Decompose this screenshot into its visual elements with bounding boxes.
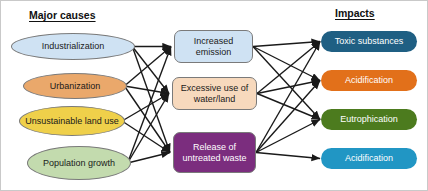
node-label: Unsustainable land use [22,116,122,126]
edge-increased-emission-to-toxic-substances [253,42,320,47]
node-label: Population growth [40,158,118,168]
edge-urbanization-to-release-untreated-waste [124,86,170,153]
edge-release-untreated-waste-to-acidification-orange [256,81,320,153]
edge-unsustainable-land-use-to-release-untreated-waste [122,121,170,153]
node-acidification-blue[interactable]: Acidification [321,148,417,169]
edge-industrialization-to-excessive-use-water-land [132,47,169,94]
node-label: Urbanization [47,81,104,91]
node-label: Increased emission [175,36,252,57]
node-urbanization[interactable]: Urbanization [23,73,127,99]
column-header-impacts: Impacts [335,7,375,19]
node-toxic-substances[interactable]: Toxic substances [321,31,417,52]
edge-release-untreated-waste-to-eutrophication [256,120,320,153]
node-excessive-use-water-land[interactable]: Excessive use of water/land [172,77,257,110]
edge-urbanization-to-excessive-use-water-land [124,86,169,94]
node-increased-emission[interactable]: Increased emission [174,30,253,63]
edge-industrialization-to-release-untreated-waste [132,47,170,153]
edge-population-growth-to-increased-emission [128,47,171,164]
node-population-growth[interactable]: Population growth [27,146,131,180]
edge-population-growth-to-excessive-use-water-land [128,94,169,164]
node-label: Acidification [342,75,396,85]
node-label: Excessive use of water/land [173,83,256,104]
edge-excessive-use-water-land-to-acidification-orange [257,81,320,94]
node-industrialization[interactable]: Industrialization [11,33,135,60]
edge-increased-emission-to-eutrophication [253,47,320,120]
node-acidification-orange[interactable]: Acidification [321,70,417,91]
node-label: Toxic substances [332,36,407,46]
edge-excessive-use-water-land-to-toxic-substances [257,42,320,94]
edge-population-growth-to-release-untreated-waste [128,153,170,164]
node-label: Acidification [342,153,396,163]
node-label: Eutrophication [337,114,401,124]
node-release-untreated-waste[interactable]: Release of untreated waste [173,132,256,173]
edge-unsustainable-land-use-to-excessive-use-water-land [122,94,169,122]
node-label: Release of untreated waste [174,142,255,163]
node-eutrophication[interactable]: Eutrophication [321,109,417,130]
edge-increased-emission-to-acidification-orange [253,47,320,81]
edge-release-untreated-waste-to-acidification-blue [256,153,320,159]
column-header-major-causes: Major causes [29,9,96,21]
node-unsustainable-land-use[interactable]: Unsustainable land use [19,106,125,136]
edge-urbanization-to-increased-emission [124,47,171,87]
edge-excessive-use-water-land-to-eutrophication [257,94,320,120]
node-label: Industrialization [39,41,108,51]
diagram-canvas: Major causes Impacts IndustrializationUr… [0,0,428,191]
edge-release-untreated-waste-to-toxic-substances [256,42,320,153]
